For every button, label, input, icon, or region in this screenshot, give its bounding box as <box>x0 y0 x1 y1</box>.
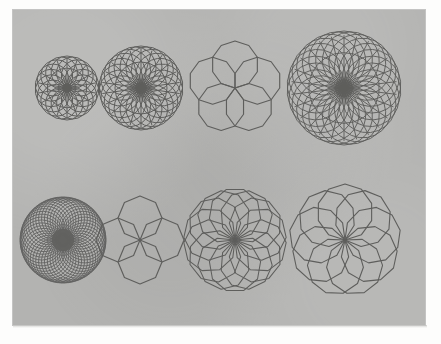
rosette-polygon <box>318 184 371 240</box>
rosette-hub <box>335 79 353 97</box>
rosette-polygon <box>96 218 140 262</box>
rosette-polygons <box>99 46 182 130</box>
rosette-polygon <box>341 227 397 282</box>
rosette-polygons <box>190 41 279 131</box>
rosette-polygon <box>199 84 244 131</box>
rosette-polygon <box>198 191 249 242</box>
rosette-figure-1-1 <box>31 52 103 124</box>
plate-root <box>0 0 441 344</box>
rosette-polygons <box>290 184 400 293</box>
rosette-polygons <box>96 196 184 284</box>
rosette-polygon <box>209 190 260 240</box>
rosette-polygons <box>287 31 400 145</box>
rosette-polygon <box>221 238 272 289</box>
rosette-figure-1-4 <box>283 27 405 149</box>
rosette-polygon <box>300 191 354 247</box>
rosette-polygon <box>140 218 184 262</box>
rosette-canvas <box>95 42 187 134</box>
rosette-figure-1-2 <box>95 42 187 134</box>
rosette-polygon <box>209 240 260 290</box>
rosette-canvas <box>92 192 188 288</box>
rosette-polygon <box>118 240 162 284</box>
rosette-figure-2-4 <box>285 180 405 300</box>
figure-grid <box>0 0 441 344</box>
rosette-polygon <box>336 191 390 247</box>
rosette-canvas <box>31 52 103 124</box>
rosette-polygons <box>35 56 98 120</box>
rosette-figure-1-3 <box>184 37 286 139</box>
rosette-figure-2-3 <box>179 184 291 296</box>
rosette-hub <box>62 83 72 93</box>
rosette-polygon <box>221 191 272 242</box>
rosette-polygon <box>293 227 349 282</box>
rosette-canvas <box>184 37 286 139</box>
rosette-canvas <box>179 184 291 296</box>
rosette-hub <box>134 81 147 94</box>
rosette-polygon <box>118 196 162 240</box>
rosette-canvas <box>283 27 405 149</box>
rosette-polygon <box>198 238 249 289</box>
rosette-polygons <box>184 190 286 291</box>
rosette-hub <box>52 229 74 251</box>
rosette-canvas <box>285 180 405 300</box>
rosette-figure-2-2 <box>92 192 188 288</box>
